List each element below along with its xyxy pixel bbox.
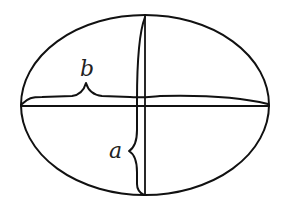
label-a: a <box>109 138 122 163</box>
ellipse-diagram: b a <box>0 0 281 210</box>
label-b: b <box>80 56 94 81</box>
